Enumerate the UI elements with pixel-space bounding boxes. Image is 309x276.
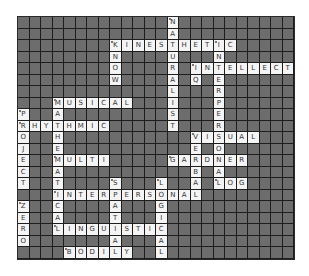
letter-cell[interactable]: U [168, 52, 180, 64]
letter-cell[interactable]: O [225, 178, 237, 190]
letter-cell[interactable]: L [122, 98, 134, 110]
letter-cell[interactable]: E [225, 63, 237, 75]
letter-cell[interactable]: Y [122, 247, 134, 259]
letter-cell[interactable]: T [18, 178, 30, 190]
letter-cell[interactable]: C [225, 40, 237, 52]
letter-cell[interactable]: A [179, 155, 191, 167]
letter-cell[interactable]: P [214, 98, 226, 110]
letter-cell[interactable]: I [191, 63, 203, 75]
letter-cell[interactable]: O [110, 63, 122, 75]
letter-cell[interactable]: E [53, 144, 65, 156]
letter-cell[interactable]: A [237, 132, 249, 144]
letter-cell[interactable]: E [225, 155, 237, 167]
letter-cell[interactable]: R [99, 190, 111, 202]
letter-cell[interactable]: U [64, 98, 76, 110]
letter-cell[interactable]: V [191, 132, 203, 144]
letter-cell[interactable]: C [156, 224, 168, 236]
letter-cell[interactable]: L [110, 247, 122, 259]
letter-cell[interactable]: T [168, 121, 180, 133]
letter-cell[interactable]: I [202, 132, 214, 144]
letter-cell[interactable]: E [260, 63, 272, 75]
letter-cell[interactable]: R [237, 155, 249, 167]
letter-cell[interactable]: U [64, 155, 76, 167]
letter-cell[interactable]: T [76, 190, 88, 202]
letter-cell[interactable]: B [64, 247, 76, 259]
letter-cell[interactable]: S [214, 132, 226, 144]
letter-cell[interactable]: P [18, 109, 30, 121]
letter-cell[interactable]: K [110, 40, 122, 52]
letter-cell[interactable]: H [30, 121, 42, 133]
letter-cell[interactable]: N [214, 155, 226, 167]
letter-cell[interactable]: S [122, 224, 134, 236]
letter-cell[interactable]: P [110, 190, 122, 202]
letter-cell[interactable]: A [53, 109, 65, 121]
letter-cell[interactable]: S [156, 40, 168, 52]
letter-cell[interactable]: N [64, 190, 76, 202]
letter-cell[interactable]: N [76, 224, 88, 236]
letter-cell[interactable]: H [64, 121, 76, 133]
letter-cell[interactable]: A [53, 167, 65, 179]
letter-cell[interactable]: I [99, 247, 111, 259]
letter-cell[interactable]: A [156, 236, 168, 248]
letter-cell[interactable]: I [87, 98, 99, 110]
letter-cell[interactable]: A [110, 236, 122, 248]
letter-cell[interactable]: I [99, 155, 111, 167]
letter-cell[interactable]: B [191, 167, 203, 179]
letter-cell[interactable]: R [214, 86, 226, 98]
letter-cell[interactable]: T [214, 63, 226, 75]
letter-cell[interactable]: R [18, 224, 30, 236]
letter-cell[interactable]: E [87, 190, 99, 202]
letter-cell[interactable]: E [191, 144, 203, 156]
letter-cell[interactable]: I [64, 224, 76, 236]
letter-cell[interactable]: I [122, 40, 134, 52]
letter-cell[interactable]: I [87, 121, 99, 133]
letter-cell[interactable]: N [214, 52, 226, 64]
letter-cell[interactable]: N [168, 17, 180, 29]
letter-cell[interactable]: I [53, 190, 65, 202]
letter-cell[interactable]: C [18, 167, 30, 179]
letter-cell[interactable]: R [191, 155, 203, 167]
letter-cell[interactable]: L [76, 155, 88, 167]
letter-cell[interactable]: T [53, 178, 65, 190]
letter-cell[interactable]: O [18, 132, 30, 144]
letter-cell[interactable]: T [168, 40, 180, 52]
letter-cell[interactable]: T [283, 63, 295, 75]
letter-cell[interactable]: I [110, 224, 122, 236]
letter-cell[interactable]: N [110, 52, 122, 64]
letter-cell[interactable]: A [168, 75, 180, 87]
letter-cell[interactable]: E [214, 75, 226, 87]
letter-cell[interactable]: A [53, 213, 65, 225]
letter-cell[interactable]: C [99, 98, 111, 110]
letter-cell[interactable]: M [76, 121, 88, 133]
letter-cell[interactable]: H [179, 40, 191, 52]
letter-cell[interactable]: O [18, 236, 30, 248]
letter-cell[interactable]: E [191, 40, 203, 52]
letter-cell[interactable]: H [53, 132, 65, 144]
letter-cell[interactable]: R [214, 121, 226, 133]
letter-cell[interactable]: M [53, 155, 65, 167]
letter-cell[interactable]: L [168, 86, 180, 98]
letter-cell[interactable]: T [110, 213, 122, 225]
letter-cell[interactable]: I [156, 213, 168, 225]
letter-cell[interactable]: O [76, 247, 88, 259]
letter-cell[interactable]: U [99, 224, 111, 236]
letter-cell[interactable]: E [145, 40, 157, 52]
letter-cell[interactable]: A [110, 201, 122, 213]
letter-cell[interactable]: A [110, 98, 122, 110]
letter-cell[interactable]: R [133, 190, 145, 202]
letter-cell[interactable]: M [53, 98, 65, 110]
letter-cell[interactable]: J [18, 144, 30, 156]
letter-cell[interactable]: C [99, 121, 111, 133]
letter-cell[interactable]: G [87, 224, 99, 236]
letter-cell[interactable]: S [110, 178, 122, 190]
letter-cell[interactable]: T [202, 40, 214, 52]
letter-cell[interactable]: Y [41, 121, 53, 133]
letter-cell[interactable]: N [168, 190, 180, 202]
letter-cell[interactable]: S [76, 98, 88, 110]
letter-cell[interactable]: L [237, 63, 249, 75]
letter-cell[interactable]: A [168, 29, 180, 41]
letter-cell[interactable]: G [168, 155, 180, 167]
letter-cell[interactable]: G [237, 178, 249, 190]
letter-cell[interactable]: E [214, 109, 226, 121]
letter-cell[interactable]: D [87, 247, 99, 259]
